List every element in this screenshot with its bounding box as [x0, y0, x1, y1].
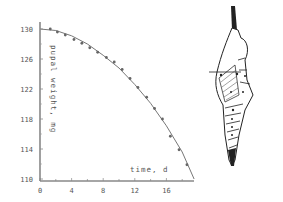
data-point [105, 56, 108, 59]
data-point [169, 135, 172, 138]
data-point [153, 107, 156, 110]
pupa-cremaster [231, 6, 237, 30]
x-tick-label: 0 [38, 187, 42, 195]
data-point [186, 163, 189, 166]
data-point [137, 86, 140, 89]
data-point [178, 148, 181, 151]
data-point [121, 68, 124, 71]
plot-area [40, 28, 194, 179]
chart: 110114118122126130 0481216 time, d pupal… [0, 0, 200, 202]
y-tick-label: 110 [20, 176, 33, 184]
data-point [49, 28, 52, 31]
data-point [80, 42, 83, 45]
y-tick-label: 122 [20, 86, 33, 94]
x-tick-label: 8 [101, 187, 105, 195]
data-point [56, 31, 59, 34]
pupa-illustration [205, 0, 283, 202]
data-point [145, 96, 148, 99]
data-point [73, 38, 76, 41]
data-point [161, 118, 164, 121]
data-point [129, 77, 132, 80]
x-axis-label: time, d [130, 165, 169, 174]
data-point [113, 61, 116, 64]
data-point [64, 34, 67, 37]
x-tick-label: 12 [131, 187, 139, 195]
x-tick-label: 4 [69, 187, 73, 195]
y-tick-label: 130 [20, 26, 33, 34]
x-tick-label: 16 [162, 187, 170, 195]
y-tick-label: 126 [20, 56, 33, 64]
y-tick-label: 114 [20, 146, 33, 154]
data-point [96, 51, 99, 54]
y-axis-label: pupal weight, mg [49, 45, 58, 133]
y-tick-label: 118 [20, 116, 33, 124]
data-point [88, 46, 91, 49]
fitted-curve [40, 29, 194, 179]
